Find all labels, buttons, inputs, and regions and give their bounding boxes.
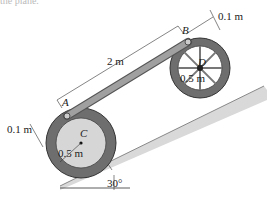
label-a: A bbox=[62, 97, 69, 108]
mechanism-drawing bbox=[0, 0, 267, 203]
bar-length-label: 2 m bbox=[107, 56, 124, 67]
angle-label: 30° bbox=[107, 178, 122, 189]
label-b: B bbox=[182, 25, 189, 36]
label-c: C bbox=[80, 128, 87, 139]
pin-b bbox=[185, 39, 191, 45]
radius-d-label: 0.5 m bbox=[180, 73, 205, 84]
diagram-canvas: the plane. bbox=[0, 0, 267, 203]
label-d: D bbox=[198, 57, 206, 68]
radius-c-label: 0.5 m bbox=[58, 148, 83, 159]
pin-a bbox=[64, 113, 70, 119]
offset-left-label: 0.1 m bbox=[7, 124, 32, 135]
offset-top-label: 0.1 m bbox=[218, 11, 243, 22]
wheel-c bbox=[46, 108, 116, 178]
